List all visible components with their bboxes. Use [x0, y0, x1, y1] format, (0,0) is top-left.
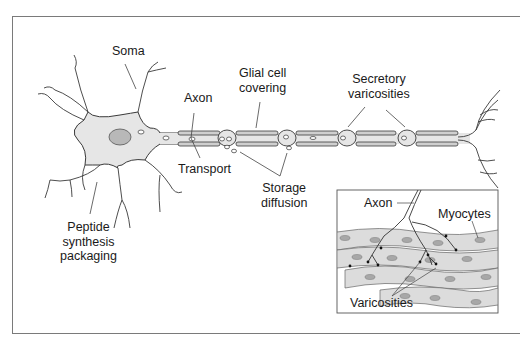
label-glial-line2: covering: [239, 81, 286, 96]
label-peptide-line1: Peptide: [60, 220, 117, 235]
nucleus: [109, 129, 131, 145]
label-storage-line2: diffusion: [261, 196, 307, 211]
axon-shaft: [160, 130, 470, 153]
label-glial-line1: Glial cell: [239, 66, 286, 81]
label-axon: Axon: [184, 91, 213, 106]
label-peptide-synthesis-packaging: Peptide synthesis packaging: [60, 220, 117, 264]
inset-label-axon: Axon: [364, 196, 393, 211]
inset-label-varicosities: Varicosities: [350, 296, 413, 311]
label-soma: Soma: [112, 44, 145, 59]
label-secretory-line1: Secretory: [348, 72, 410, 87]
neuron-diagram: [0, 0, 522, 345]
label-glial-cell-covering: Glial cell covering: [239, 66, 286, 95]
label-secretory-line2: varicosities: [348, 87, 410, 102]
label-secretory-varicosities: Secretory varicosities: [348, 72, 410, 101]
label-transport: Transport: [178, 162, 231, 177]
label-storage-line1: Storage: [261, 181, 307, 196]
inset-label-myocytes: Myocytes: [438, 207, 491, 222]
label-peptide-line3: packaging: [60, 249, 117, 264]
label-peptide-line2: synthesis: [60, 235, 117, 250]
label-storage-diffusion: Storage diffusion: [261, 181, 307, 210]
